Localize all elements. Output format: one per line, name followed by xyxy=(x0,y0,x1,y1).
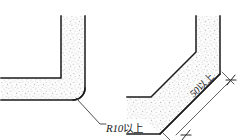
left-band-outer-edge xyxy=(1,16,61,78)
drawing-canvas: R10以上 50以上 xyxy=(0,0,252,140)
right-figure-chamfered-corner xyxy=(127,16,236,140)
r10-value: R10 xyxy=(106,122,123,134)
r10-leader-line xyxy=(76,98,106,124)
left-figure-rounded-fillet xyxy=(1,16,106,124)
r10-annotation-label: R10以上 xyxy=(106,120,143,135)
technical-drawing-svg xyxy=(0,0,252,140)
left-band-fill-texture2 xyxy=(1,16,85,100)
dim-extension-line-lower xyxy=(162,132,176,140)
r10-unit: 以上 xyxy=(123,123,143,134)
